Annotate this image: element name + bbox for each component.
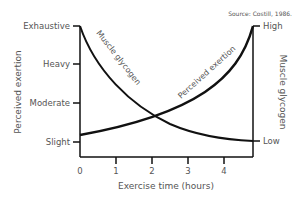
xtick-3: 3 [185, 166, 190, 176]
xtick-0: 0 [77, 166, 82, 176]
xtick-2: 2 [149, 166, 154, 176]
xtick-1: 1 [113, 166, 118, 176]
y-left-axis-title: Perceived exertion [13, 50, 23, 133]
ytick-high: High [263, 21, 283, 31]
curve-label-glycogen: Muscle glycogen [94, 29, 142, 87]
ytick-slight: Slight [46, 137, 71, 147]
xtick-4: 4 [221, 166, 226, 176]
ytick-exhaustive: Exhaustive [23, 21, 70, 31]
ytick-moderate: Moderate [30, 98, 70, 108]
chart: Source: Costill, 1986. Exhaustive Heavy … [0, 0, 297, 202]
y-right-axis-title: Muscle glycogen [278, 55, 288, 130]
x-axis-title: Exercise time (hours) [118, 181, 214, 191]
ytick-low: Low [263, 136, 280, 146]
source-note: Source: Costill, 1986. [228, 10, 292, 17]
ytick-heavy: Heavy [43, 59, 70, 69]
